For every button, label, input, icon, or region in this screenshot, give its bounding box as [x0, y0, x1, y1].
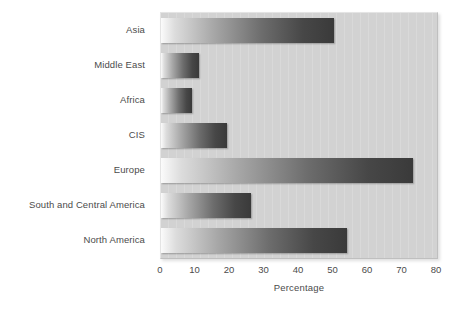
y-axis-label: Middle East — [0, 59, 145, 70]
y-axis-label: South and Central America — [0, 199, 145, 210]
y-axis-label: Asia — [0, 24, 145, 35]
bar — [161, 53, 199, 78]
y-axis-label: North America — [0, 234, 145, 245]
y-axis-label: CIS — [0, 129, 145, 140]
bar — [161, 228, 347, 253]
x-axis-tick: 60 — [362, 264, 373, 275]
x-axis-tick: 10 — [189, 264, 200, 275]
bar — [161, 88, 192, 113]
y-axis-label: Europe — [0, 164, 145, 175]
y-axis-category-labels: Asia Middle East Africa CIS Europe South… — [0, 12, 152, 259]
y-axis-label: Africa — [0, 94, 145, 105]
bar — [161, 123, 227, 148]
x-axis-tick: 0 — [157, 264, 162, 275]
x-axis-tick: 70 — [396, 264, 407, 275]
x-axis-title: Percentage — [160, 282, 438, 293]
bar-chart: Asia Middle East Africa CIS Europe South… — [0, 0, 468, 317]
x-axis-tick: 30 — [258, 264, 269, 275]
plot-area — [160, 12, 438, 259]
x-axis-tick: 50 — [327, 264, 338, 275]
x-axis-tick-labels: 0 10 20 30 40 50 60 70 80 — [160, 264, 438, 278]
x-axis-tick: 20 — [224, 264, 235, 275]
bar — [161, 158, 413, 183]
x-axis-tick: 40 — [293, 264, 304, 275]
bars-layer — [161, 13, 437, 258]
x-axis-tick: 80 — [431, 264, 442, 275]
bar — [161, 193, 251, 218]
bar — [161, 18, 334, 43]
